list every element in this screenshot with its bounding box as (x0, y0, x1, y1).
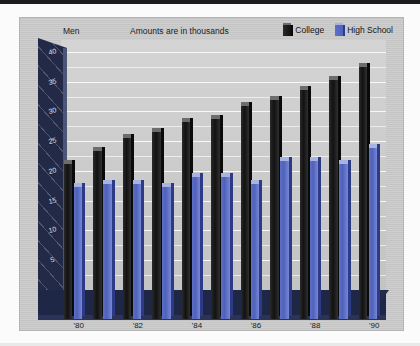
bar-high-school[interactable] (280, 157, 289, 319)
bar-top-cap (123, 134, 132, 138)
bar-college[interactable] (241, 102, 250, 319)
bar-top-cap (211, 115, 220, 119)
chart-plate: Men Amounts are in thousands CollegeHigh… (20, 18, 403, 330)
bar-side-face (318, 157, 321, 316)
bar-group (268, 40, 298, 319)
chart-subtitle: Amounts are in thousands (130, 26, 229, 36)
bar-series-container (61, 40, 386, 319)
bar-face (221, 173, 230, 319)
legend-swatch-icon (335, 23, 343, 36)
x-axis-tick-label: '88 (310, 321, 320, 330)
bar-side-face (259, 180, 262, 316)
bar-college[interactable] (93, 147, 102, 319)
bar-group (179, 40, 209, 319)
bar-group (91, 40, 121, 319)
bar-group (327, 40, 357, 319)
bar-face (182, 118, 191, 319)
bar-college[interactable] (64, 160, 73, 319)
bar-college[interactable] (359, 63, 368, 319)
bar-top-cap (152, 128, 161, 132)
bar-face (300, 86, 309, 319)
bar-top-cap (162, 183, 171, 187)
bar-high-school[interactable] (251, 180, 260, 319)
bar-top-cap (329, 76, 338, 80)
bar-face (310, 157, 319, 319)
legend-label: High School (347, 25, 393, 35)
bar-high-school[interactable] (369, 144, 378, 319)
bar-side-face (141, 180, 144, 316)
bar-group (238, 40, 268, 319)
bar-side-face (289, 157, 292, 316)
frame-edge-top (0, 0, 420, 4)
bar-college[interactable] (182, 118, 191, 319)
bar-group (120, 40, 150, 319)
bar-face (329, 76, 338, 319)
bar-college[interactable] (123, 134, 132, 319)
bar-side-face (200, 173, 203, 316)
bar-face (241, 102, 250, 319)
bar-side-face (377, 144, 380, 316)
bar-face (93, 147, 102, 319)
bar-face (64, 160, 73, 319)
bar-high-school[interactable] (74, 183, 83, 319)
chart-frame: Men Amounts are in thousands CollegeHigh… (0, 0, 420, 346)
bar-face (103, 180, 112, 319)
bar-top-cap (369, 144, 378, 148)
bar-top-cap (64, 160, 73, 164)
bar-face (211, 115, 220, 319)
chart-legend: CollegeHigh School (283, 23, 393, 36)
bar-high-school[interactable] (162, 183, 171, 319)
bar-top-cap (103, 180, 112, 184)
bar-face (369, 144, 378, 319)
bar-top-cap (74, 183, 83, 187)
bar-high-school[interactable] (310, 157, 319, 319)
bar-top-cap (221, 173, 230, 177)
bar-high-school[interactable] (221, 173, 230, 319)
bar-face (162, 183, 171, 319)
bar-face (280, 157, 289, 319)
bar-side-face (82, 183, 85, 316)
x-axis-tick-label: '86 (251, 321, 261, 330)
bar-group (209, 40, 239, 319)
x-axis-tick-labels: '80'82'84'86'88'90 (61, 321, 386, 330)
bar-side-face (112, 180, 115, 316)
bar-face (339, 160, 348, 319)
bar-group (61, 40, 91, 319)
legend-item-college[interactable]: College (283, 23, 324, 36)
bar-top-cap (359, 63, 368, 67)
legend-label: College (295, 25, 324, 35)
bar-top-cap (270, 96, 279, 100)
bar-top-cap (339, 160, 348, 164)
bar-group (356, 40, 386, 319)
bar-top-cap (192, 173, 201, 177)
x-axis-tick-label: '84 (192, 321, 202, 330)
bar-high-school[interactable] (103, 180, 112, 319)
x-axis-tick-label: '82 (133, 321, 143, 330)
bar-top-cap (251, 180, 260, 184)
bar-top-cap (182, 118, 191, 122)
bar-top-cap (241, 102, 250, 106)
bar-college[interactable] (211, 115, 220, 319)
bar-face (133, 180, 142, 319)
bar-college[interactable] (300, 86, 309, 319)
bar-college[interactable] (152, 128, 161, 319)
bar-group (297, 40, 327, 319)
bar-top-cap (93, 147, 102, 151)
x-axis-tick-label: '90 (369, 321, 379, 330)
legend-item-hs[interactable]: High School (335, 23, 393, 36)
bar-face (74, 183, 83, 319)
bar-group (150, 40, 180, 319)
bar-face (192, 173, 201, 319)
legend-swatch-icon (283, 23, 291, 36)
bar-high-school[interactable] (339, 160, 348, 319)
bar-face (123, 134, 132, 319)
bar-college[interactable] (329, 76, 338, 319)
bar-face (251, 180, 260, 319)
bar-high-school[interactable] (192, 173, 201, 319)
bar-face (152, 128, 161, 319)
bar-high-school[interactable] (133, 180, 142, 319)
bar-college[interactable] (270, 96, 279, 319)
bar-side-face (171, 183, 174, 316)
x-axis-tick-label: '80 (74, 321, 84, 330)
bar-top-cap (133, 180, 142, 184)
